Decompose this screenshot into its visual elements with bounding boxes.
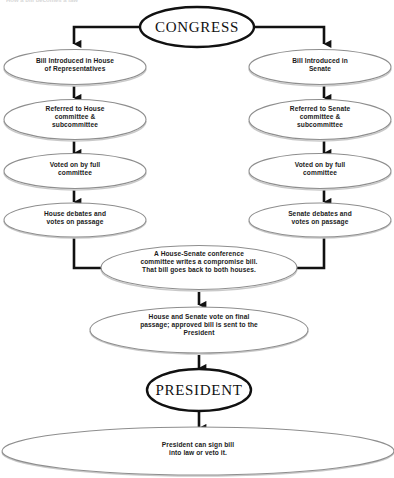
node-label-final-vote: House and Senate vote on final passage; … — [90, 313, 308, 337]
node-label-senate-debates: Senate debates and votes on passage — [255, 210, 385, 226]
node-label-sign-or-veto: President can sign bill into law or veto… — [100, 441, 296, 457]
node-label-house-referred: Referred to House committee & subcommitt… — [10, 105, 140, 129]
node-label-president: PRESIDENT — [147, 381, 251, 399]
node-label-senate-voted: Voted on by full committee — [255, 161, 385, 177]
connector-congress-to-house — [74, 27, 140, 44]
node-label-congress: CONGRESS — [140, 18, 254, 36]
node-label-house-voted: Voted on by full committee — [10, 161, 140, 177]
connector-congress-to-senate — [254, 27, 324, 44]
node-label-conference: A House-Senate conference committee writ… — [101, 250, 297, 274]
node-label-house-intro: Bill Introduced in House of Representati… — [10, 57, 140, 73]
flowchart-canvas: How a bill becomes a law — [0, 0, 394, 478]
node-label-house-debates: House debates and votes on passage — [10, 210, 140, 226]
node-label-senate-referred: Referred to Senate committee & subcommit… — [255, 105, 385, 129]
node-label-senate-intro: Bill Introduced in Senate — [255, 57, 385, 73]
